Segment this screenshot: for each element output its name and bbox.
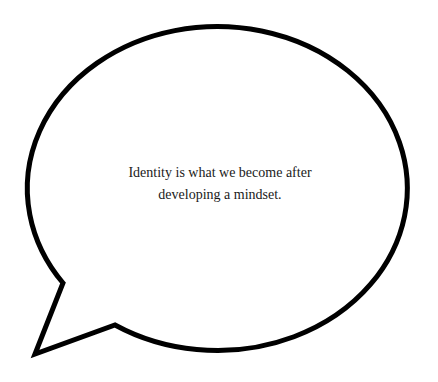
- speech-line-2: developing a mindset.: [120, 184, 320, 206]
- speech-bubble-text: Identity is what we become after develop…: [120, 162, 320, 206]
- speech-line-1: Identity is what we become after: [120, 162, 320, 184]
